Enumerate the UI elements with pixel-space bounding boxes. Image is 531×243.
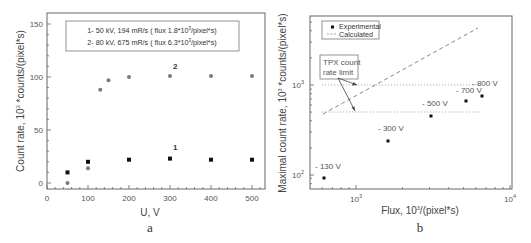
chart-a-y-tick-50: 50 <box>34 126 43 135</box>
tpx-annotation-line-2: rate limit <box>323 68 354 77</box>
chart-b: 102 103 103 104 Flux, 103/(pixel*s) Maxi… <box>277 13 516 235</box>
chart-a-panel-label: a <box>147 220 153 235</box>
chart-b-x-axis-title: Flux, 103/(pixel*s) <box>381 205 459 216</box>
chart-a-series-2-label: 2 <box>173 62 178 71</box>
chart-b-y-axis-title: Maximal count rate, 103 *counts/(pixel*s… <box>277 13 288 192</box>
figure: 0 50 100 150 0 100 200 300 400 <box>0 0 531 243</box>
chart-a-x-axis-title: U, V <box>140 207 160 218</box>
chart-b-x-tick-10000: 104 <box>504 193 516 204</box>
tpx-annotation-line-1: TPX count <box>323 58 361 67</box>
data-point <box>430 115 433 118</box>
chart-a-y-ticks <box>47 24 51 183</box>
chart-a-x-tick-400: 400 <box>204 194 218 203</box>
chart-a-x-tick-300: 300 <box>163 194 177 203</box>
data-point <box>127 75 131 79</box>
chart-a-y-tick-0: 0 <box>39 179 44 188</box>
chart-a-series-1 <box>66 157 255 175</box>
data-point <box>86 166 90 170</box>
chart-a-y-tick-150: 150 <box>30 20 44 29</box>
chart-a-x-ticks <box>47 185 260 189</box>
data-point <box>209 74 213 78</box>
arrow-head-icon <box>352 82 357 86</box>
chart-a-x-tick-100: 100 <box>81 194 95 203</box>
chart-a-series-1-label: 1 <box>173 143 178 152</box>
data-point <box>86 160 90 164</box>
data-point <box>250 74 254 78</box>
chart-a-x-tick-0: 0 <box>45 194 50 203</box>
data-point <box>250 158 254 162</box>
data-point <box>168 157 172 161</box>
chart-a: 0 50 100 150 0 100 200 300 400 <box>15 13 265 235</box>
data-point <box>209 158 213 162</box>
chart-b-y-tick-100: 102 <box>292 169 304 180</box>
point-label-300v: - 300 V <box>378 124 404 133</box>
chart-b-experimental-points <box>323 95 484 180</box>
chart-a-y-tick-100: 100 <box>30 73 44 82</box>
tpx-annotation: TPX count rate limit <box>320 55 361 111</box>
chart-a-legend-item-1: 1- 50 kV, 194 mR/s ( flux 1.8*103/pixel*… <box>87 26 216 35</box>
data-point <box>66 181 70 185</box>
point-label-130v: - 130 V <box>315 162 341 171</box>
data-point <box>127 158 131 162</box>
data-point <box>168 74 172 78</box>
chart-b-y-ticks <box>310 22 314 184</box>
arrow-head-icon <box>352 107 356 112</box>
data-point <box>107 78 111 82</box>
legend-calculated: Calculated <box>339 30 373 39</box>
chart-a-y-title-rest: *counts/(pixel*s) <box>15 30 26 105</box>
point-label-800v: - 800 V <box>472 79 498 88</box>
chart-b-legend: Experimental Calculated <box>322 21 381 39</box>
chart-b-x-tick-1000: 103 <box>350 193 362 204</box>
experimental-marker-icon <box>331 26 334 29</box>
data-point <box>98 88 102 92</box>
chart-b-x-ticks <box>322 185 510 189</box>
chart-a-series-2 <box>66 74 255 185</box>
chart-b-y-tick-1000: 103 <box>292 79 304 90</box>
chart-a-legend-item-2: 2- 80 kV, 675 mR/s ( flux 6.3*103/pixel*… <box>87 38 216 47</box>
data-point <box>66 170 70 174</box>
data-point <box>323 177 326 180</box>
chart-a-y-title-main: Count rate, 10 <box>15 108 26 172</box>
chart-a-x-tick-500: 500 <box>245 194 259 203</box>
chart-b-panel-label: b <box>417 220 424 235</box>
data-point <box>465 100 468 103</box>
chart-a-x-tick-200: 200 <box>122 194 136 203</box>
data-point <box>387 140 390 143</box>
chart-a-y-axis-title: Count rate, 103 *counts/(pixel*s) <box>15 30 26 172</box>
chart-a-legend: 1- 50 kV, 194 mR/s ( flux 1.8*103/pixel*… <box>66 21 239 51</box>
point-label-500v: - 500 V <box>422 99 448 108</box>
